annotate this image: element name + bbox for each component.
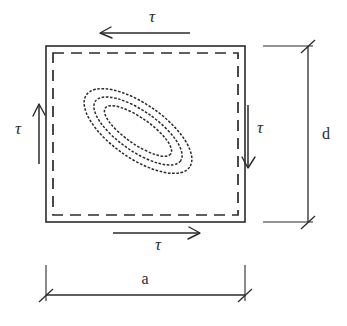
shear-arrow-bottom-label: τ <box>155 235 162 254</box>
stress-contour-ellipses <box>71 73 205 190</box>
dimension-height-d: d <box>263 40 330 229</box>
shear-stress-diagram: τ τ τ τ d <box>0 0 347 326</box>
section-box-group <box>46 46 245 222</box>
dimension-d-label: d <box>322 125 330 142</box>
diagram-canvas: τ τ τ τ d <box>0 0 347 326</box>
section-outer-rectangle <box>46 46 245 222</box>
shear-arrow-left-label: τ <box>15 119 22 138</box>
shear-arrow-left: τ <box>15 104 45 164</box>
section-inner-dashed-rectangle <box>53 53 238 215</box>
shear-arrow-bottom: τ <box>113 227 200 254</box>
contour-ellipse-outer <box>71 73 205 190</box>
shear-arrow-top: τ <box>100 7 190 38</box>
dimension-width-a: a <box>39 265 252 302</box>
shear-arrow-top-label: τ <box>149 7 156 26</box>
shear-arrow-right-label: τ <box>257 118 264 137</box>
dimension-a-label: a <box>141 270 148 287</box>
